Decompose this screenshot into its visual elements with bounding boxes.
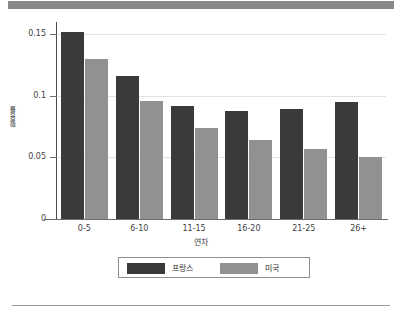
chart-legend: 프랑스 미국 <box>118 257 310 278</box>
bar-미국-21-25 <box>304 149 327 219</box>
bar-group <box>225 14 272 220</box>
chart-figure: 00.050.10.15 활용률 0-56-1011-1516-2021-252… <box>0 14 402 298</box>
bar-미국-11-15 <box>195 128 218 219</box>
bar-group <box>280 14 327 220</box>
bottom-divider <box>12 305 390 306</box>
y-tick-label: 0.05 <box>28 153 46 161</box>
x-tick-label: 16-20 <box>219 224 279 233</box>
x-tick-label: 6-10 <box>109 224 169 233</box>
bar-프랑스-11-15 <box>171 106 194 219</box>
x-tick-label: 0-5 <box>54 224 114 233</box>
bar-프랑스-0-5 <box>61 32 84 219</box>
y-tick-label: 0.15 <box>28 30 46 38</box>
y-tick-mark <box>50 96 57 97</box>
y-tick-label: 0 <box>41 215 46 223</box>
y-axis-label: 활용률 <box>10 106 22 127</box>
bar-미국-26+ <box>359 157 382 219</box>
y-tick-mark <box>50 157 57 158</box>
top-decorative-band <box>8 1 394 9</box>
bar-프랑스-26+ <box>335 102 358 219</box>
bar-미국-0-5 <box>85 59 108 219</box>
y-tick-mark <box>50 219 57 220</box>
bar-group <box>335 14 382 220</box>
legend-item-series-0: 프랑스 <box>127 262 193 274</box>
bar-group <box>116 14 163 220</box>
x-tick-label: 11-15 <box>164 224 224 233</box>
bar-프랑스-6-10 <box>116 76 139 219</box>
bar-group <box>171 14 218 220</box>
bar-미국-16-20 <box>249 140 272 219</box>
bar-미국-6-10 <box>140 101 163 219</box>
x-tick-label: 26+ <box>329 224 389 233</box>
y-tick-label: 0.1 <box>33 92 46 100</box>
legend-label-france: 프랑스 <box>172 264 193 273</box>
y-tick-mark <box>50 34 57 35</box>
x-axis-label: 연차 <box>0 238 402 247</box>
legend-item-series-1: 미국 <box>220 262 279 274</box>
legend-swatch-usa <box>220 263 258 274</box>
legend-swatch-france <box>127 263 165 274</box>
bar-프랑스-21-25 <box>280 109 303 219</box>
bar-프랑스-16-20 <box>225 111 248 219</box>
chart-page: 00.050.10.15 활용률 0-56-1011-1516-2021-252… <box>0 0 402 318</box>
bar-group <box>61 14 108 220</box>
bars-layer <box>57 14 386 220</box>
legend-label-usa: 미국 <box>265 264 279 273</box>
x-tick-label: 21-25 <box>274 224 334 233</box>
